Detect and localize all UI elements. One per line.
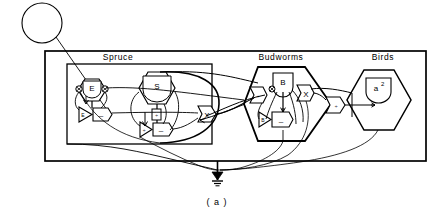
label-storage-e: E <box>89 84 94 93</box>
energy-systems-diagram-svg: Spruce Budworms Birds E E – S ÷ <box>0 0 434 217</box>
label-divide-s: ÷ <box>155 112 158 118</box>
budworms-b-arrow <box>281 108 286 112</box>
spruce-e-to-budworms <box>106 88 244 100</box>
figure-container: Spruce Budworms Birds E E – S ÷ <box>0 0 434 217</box>
spruce-s-right-loop <box>170 92 179 130</box>
label-minus-budworms: – <box>279 117 284 126</box>
spruce-s-left-loop <box>131 92 140 126</box>
budworms-minus: – <box>272 112 293 127</box>
label-storage-a2: a <box>374 84 379 93</box>
birds-storage-a2: a 2 <box>366 78 391 103</box>
heat-sink-ground <box>212 161 223 186</box>
spruce-amplifier-e: E <box>79 107 92 122</box>
budworms-workgate <box>269 86 275 92</box>
group-label-birds: Birds <box>372 52 394 62</box>
birds-divide: ÷ <box>326 97 345 113</box>
label-divide-birds: ÷ <box>335 103 338 109</box>
label-amplifier-s: ÷ <box>143 127 146 133</box>
spruce-divide-s: ÷ <box>152 109 161 120</box>
spruce-workgate-right <box>102 86 108 92</box>
group-label-budworms: Budworms <box>259 52 304 62</box>
budworms-multiplier-x: X <box>297 85 314 101</box>
spruce-e-left-loop <box>75 92 79 110</box>
birds-top-link <box>311 88 352 93</box>
heat-flow-birds <box>220 130 378 170</box>
figure-caption: ( a ) <box>206 197 227 207</box>
label-storage-b: B <box>280 78 285 87</box>
heat-flow-spruce-1 <box>67 144 217 170</box>
label-divide-budworms: ÷ <box>257 93 260 99</box>
group-label-spruce: Spruce <box>103 52 134 62</box>
spruce-workgate-left <box>76 86 82 92</box>
spruce-x-to-budworms-divide <box>216 98 254 114</box>
label-minus-s: – <box>159 126 164 135</box>
spruce-storage-s: S <box>139 72 175 104</box>
spruce-minus-e: – <box>93 108 112 121</box>
label-multiplier-budworms: X <box>303 90 309 99</box>
spruce-s-inner-loop <box>163 104 166 124</box>
budworms-amplifier-b: B <box>259 112 271 127</box>
